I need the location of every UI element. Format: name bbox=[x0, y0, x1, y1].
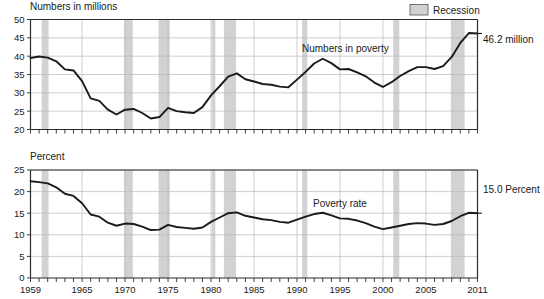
y-tick-label: 45 bbox=[14, 32, 25, 43]
y-axis-ticks: 0510152025 bbox=[14, 164, 31, 283]
y-tick-label: 25 bbox=[14, 164, 25, 175]
poverty-chart-figure: 20253035404550Numbers in millionsNumbers… bbox=[0, 0, 544, 299]
series-label-top: Numbers in poverty bbox=[302, 43, 389, 54]
recession-band bbox=[42, 170, 49, 278]
y-tick-label: 20 bbox=[14, 186, 25, 197]
x-axis-labels: 1959196519701975198019851990199520002005… bbox=[20, 284, 488, 295]
x-tick-label: 1990 bbox=[286, 284, 307, 295]
chart-canvas: 20253035404550Numbers in millionsNumbers… bbox=[0, 0, 544, 299]
recession-band bbox=[451, 170, 465, 278]
recession-legend-label: Recession bbox=[433, 5, 480, 16]
recession-legend-swatch bbox=[410, 5, 428, 16]
y-tick-label: 50 bbox=[14, 14, 25, 25]
y-tick-label: 35 bbox=[14, 69, 25, 80]
x-tick-label: 1959 bbox=[20, 284, 41, 295]
y-tick-label: 40 bbox=[14, 51, 25, 62]
x-tick-label: 1975 bbox=[157, 284, 178, 295]
x-tick-label: 2005 bbox=[415, 284, 436, 295]
x-axis-ticks bbox=[31, 130, 478, 134]
endpoint-label-bottom: 15.0 Percent bbox=[483, 184, 540, 195]
panel-bottom: 0510152025195919651970197519801985199019… bbox=[14, 151, 540, 295]
recession-band bbox=[393, 170, 399, 278]
y-tick-label: 20 bbox=[14, 124, 25, 135]
endpoint-label-top: 46.2 million bbox=[483, 34, 534, 45]
y-tick-label: 15 bbox=[14, 208, 25, 219]
x-tick-label: 1980 bbox=[200, 284, 221, 295]
y-tick-label: 25 bbox=[14, 106, 25, 117]
x-tick-label: 2000 bbox=[372, 284, 393, 295]
recession-band bbox=[212, 170, 215, 278]
y-axis-ticks: 20253035404550 bbox=[14, 14, 31, 135]
x-tick-label: 2011 bbox=[467, 284, 487, 295]
x-tick-label: 1995 bbox=[329, 284, 350, 295]
panel-title-bottom: Percent bbox=[30, 151, 65, 162]
recession-band bbox=[302, 170, 307, 278]
recession-bands bbox=[42, 170, 465, 278]
x-tick-label: 1985 bbox=[243, 284, 264, 295]
y-tick-label: 0 bbox=[19, 272, 24, 283]
panel-title-top: Numbers in millions bbox=[30, 1, 117, 12]
series-label-bottom: Poverty rate bbox=[313, 198, 367, 209]
x-tick-label: 1965 bbox=[72, 284, 93, 295]
x-tick-label: 1970 bbox=[114, 284, 135, 295]
legend: Recession bbox=[410, 5, 480, 16]
y-tick-label: 30 bbox=[14, 87, 25, 98]
y-tick-label: 10 bbox=[14, 229, 25, 240]
panel-top: 20253035404550Numbers in millionsNumbers… bbox=[14, 1, 534, 135]
recession-band bbox=[224, 170, 236, 278]
y-tick-label: 5 bbox=[19, 251, 24, 262]
